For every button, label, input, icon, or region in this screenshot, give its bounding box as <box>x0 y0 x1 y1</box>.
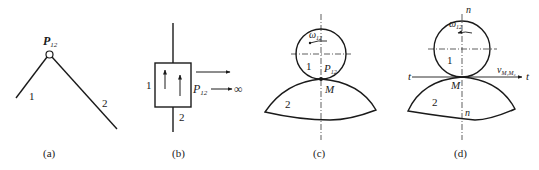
pole-label: P12 <box>192 82 208 97</box>
link-1-label: 1 <box>146 79 152 91</box>
link-2-label: 2 <box>179 111 185 123</box>
link-2-body <box>265 79 376 120</box>
contact-label: M <box>324 83 335 95</box>
normal-bottom-label: n <box>465 107 470 118</box>
rotation-arrow-icon <box>458 32 472 33</box>
link-2-body <box>408 77 515 120</box>
revolute-joint-icon <box>46 51 53 58</box>
link-1-label: 1 <box>29 90 35 102</box>
contact-label: M <box>450 79 461 91</box>
rotation-arrow-icon <box>310 41 327 43</box>
pole-label: P12 <box>323 62 337 75</box>
diagram-canvas: P12 1 2 (a) 1 P12 ∞ 2 (b) ω12 1 P12 M 2 … <box>0 0 539 170</box>
link-1-label: 1 <box>306 60 312 72</box>
tangent-right-label: t <box>526 70 530 82</box>
omega-label: ω12 <box>309 29 322 41</box>
figure-d: n n ω12 1 t t vM₁M₂ M 2 (d) <box>408 4 530 160</box>
link-2-label: 2 <box>432 96 438 108</box>
contact-point <box>319 77 323 81</box>
link-2-label: 2 <box>102 97 108 109</box>
velocity-label: vM₁M₂ <box>497 64 516 76</box>
caption-c: (c) <box>313 147 326 160</box>
caption-b: (b) <box>172 147 185 160</box>
pole-label: P12 <box>43 34 58 49</box>
omega-label: ω12 <box>449 18 462 30</box>
tangent-left-label: t <box>408 70 412 82</box>
link-1-label: 1 <box>447 54 453 66</box>
figure-c: ω12 1 P12 M 2 (c) <box>265 14 376 160</box>
rotation-arrow-tail <box>309 42 311 44</box>
infinity-label: ∞ <box>234 82 243 96</box>
caption-d: (d) <box>454 147 467 160</box>
figure-a: P12 1 2 (a) <box>16 34 117 160</box>
slider-block <box>155 63 191 107</box>
link-2-line <box>52 57 117 129</box>
figure-b: 1 P12 ∞ 2 (b) <box>146 23 243 160</box>
link-2-label: 2 <box>285 98 291 110</box>
normal-top-label: n <box>466 4 471 15</box>
caption-a: (a) <box>43 147 56 160</box>
